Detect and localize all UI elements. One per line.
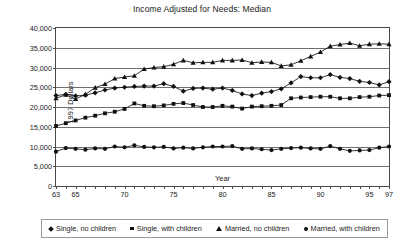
data-point-marker [181, 146, 185, 150]
y-tick-label: 40,000 [30, 24, 52, 33]
series-layer [56, 28, 389, 186]
data-point-marker [337, 75, 342, 80]
x-tick-mark [144, 186, 145, 189]
data-point-marker [220, 144, 224, 148]
x-tick-label: 63 [52, 190, 60, 199]
data-point-marker [54, 124, 58, 128]
data-point-marker [200, 85, 205, 90]
data-point-marker [348, 96, 352, 100]
x-tick-mark [134, 186, 135, 189]
data-point-marker [161, 81, 166, 86]
data-point-marker [357, 79, 362, 84]
legend-item-label: Married, with children [311, 224, 380, 233]
data-point-marker [289, 146, 293, 150]
data-point-marker [191, 103, 195, 107]
data-point-marker [162, 104, 166, 108]
data-point-marker [367, 80, 372, 85]
data-point-marker [181, 58, 186, 63]
data-point-marker [83, 116, 87, 120]
data-point-marker [64, 121, 68, 125]
data-point-marker [113, 110, 117, 114]
data-point-marker [201, 145, 205, 149]
diamond-marker-icon [48, 226, 54, 232]
legend-item[interactable]: Single, with children [130, 224, 201, 233]
data-point-marker [288, 80, 293, 85]
data-point-marker [132, 84, 137, 89]
y-tick-label: 5,000 [34, 162, 52, 171]
data-point-marker [347, 40, 352, 45]
data-point-marker [240, 107, 244, 111]
data-point-marker [113, 144, 117, 148]
data-point-marker [73, 147, 77, 151]
x-tick-mark [174, 186, 175, 189]
data-point-marker [270, 104, 274, 108]
x-tick-mark [291, 186, 292, 189]
x-tick-mark [183, 186, 184, 189]
y-tick-label: 30,000 [30, 63, 52, 72]
plot-area: 1997 Dollars 05,00010,00015,00020,00025,… [55, 27, 390, 187]
circle-marker-icon [304, 227, 308, 231]
chart-figure: Income Adjusted for Needs: Median 1997 D… [0, 0, 404, 248]
data-point-marker [328, 144, 332, 148]
x-tick-label: 70 [120, 190, 128, 199]
y-tick-label: 10,000 [30, 142, 52, 151]
data-point-marker [260, 104, 264, 108]
x-tick-mark [320, 186, 321, 189]
x-tick-mark [56, 186, 57, 189]
data-point-marker [93, 90, 98, 95]
x-tick-mark [154, 186, 155, 189]
data-point-marker [103, 111, 107, 115]
x-tick-label: 75 [169, 190, 177, 199]
data-point-marker [123, 107, 127, 111]
data-point-marker [239, 91, 244, 96]
legend-item-label: Single, no children [56, 224, 116, 233]
x-tick-mark [340, 186, 341, 189]
data-point-marker [151, 83, 156, 88]
legend-item[interactable]: Married, no children [216, 224, 290, 233]
data-point-marker [83, 92, 88, 97]
data-point-marker [269, 148, 273, 152]
data-point-marker [387, 93, 391, 97]
data-point-marker [201, 105, 205, 109]
x-tick-mark [95, 186, 96, 189]
x-tick-label: 65 [72, 190, 80, 199]
x-tick-mark [330, 186, 331, 189]
data-point-marker [318, 75, 323, 80]
square-marker-icon [130, 227, 134, 231]
data-point-marker [347, 76, 352, 81]
data-point-marker [358, 148, 362, 152]
x-tick-label: 97 [385, 190, 393, 199]
x-tick-label: 85 [267, 190, 275, 199]
x-tick-mark [252, 186, 253, 189]
x-axis-label: Year [55, 174, 390, 183]
data-point-marker [103, 147, 107, 151]
data-point-marker [309, 95, 313, 99]
data-point-marker [318, 147, 322, 151]
data-point-marker [328, 95, 332, 99]
data-point-marker [181, 89, 186, 94]
data-point-marker [260, 147, 264, 151]
data-point-marker [102, 87, 107, 92]
data-point-marker [308, 75, 313, 80]
x-tick-mark [281, 186, 282, 189]
data-point-marker [318, 49, 323, 54]
chart-title: Income Adjusted for Needs: Median [0, 4, 404, 14]
data-point-marker [102, 81, 107, 86]
data-point-marker [152, 104, 156, 108]
data-point-marker [230, 88, 235, 93]
data-point-marker [171, 146, 175, 150]
x-tick-mark [193, 186, 194, 189]
data-point-marker [152, 145, 156, 149]
data-point-marker [298, 74, 303, 79]
data-point-marker [210, 87, 215, 92]
legend-item[interactable]: Single, no children [49, 224, 116, 233]
data-point-marker [377, 82, 382, 87]
x-tick-mark [311, 186, 312, 189]
data-point-marker [74, 119, 78, 123]
data-point-marker [54, 150, 58, 154]
x-tick-label: 95 [365, 190, 373, 199]
data-point-marker [250, 146, 254, 150]
x-tick-mark [105, 186, 106, 189]
data-point-marker [132, 102, 136, 106]
legend-item[interactable]: Married, with children [304, 224, 380, 233]
